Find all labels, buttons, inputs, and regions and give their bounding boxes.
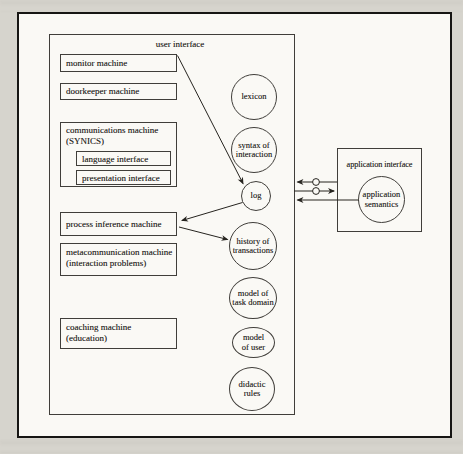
metacommunication-machine-sublabel: (interaction problems) <box>66 258 176 269</box>
metacommunication-machine-box: metacommunication machine (interaction p… <box>60 243 177 276</box>
lexicon-label: lexicon <box>241 92 266 102</box>
model-of-user-circle: model of user <box>232 327 275 358</box>
model-task-label-line2: task domain <box>232 298 273 308</box>
language-interface-label: language interface <box>82 154 148 164</box>
syntax-of-interaction-circle: syntax of interaction <box>231 127 277 173</box>
didactic-label-line2: rules <box>244 389 261 399</box>
monitor-machine-label: monitor machine <box>66 58 127 69</box>
model-user-label-line2: of user <box>242 343 265 353</box>
user-interface-label: user interface <box>140 39 220 49</box>
history-of-transactions-circle: history of transactions <box>229 222 277 270</box>
language-interface-box: language interface <box>76 151 171 166</box>
coaching-machine-label: coaching machine <box>66 322 176 333</box>
coaching-machine-box: coaching machine (education) <box>60 318 177 349</box>
coaching-machine-sublabel: (education) <box>66 333 176 344</box>
application-semantics-circle: application semantics <box>358 176 405 223</box>
doorkeeper-machine-label: doorkeeper machine <box>66 86 139 97</box>
metacommunication-machine-label: metacommunication machine <box>66 247 176 258</box>
bleed-through-artifact <box>0 0 463 12</box>
presentation-interface-label: presentation interface <box>82 173 160 183</box>
lexicon-circle: lexicon <box>231 74 277 120</box>
bleed-through-artifact <box>0 440 463 454</box>
scanned-page: user interface monitor machine doorkeepe… <box>0 0 463 454</box>
log-circle: log <box>241 181 271 211</box>
process-inference-machine-box: process inference machine <box>60 212 177 236</box>
doorkeeper-machine-box: doorkeeper machine <box>60 83 177 100</box>
log-label: log <box>251 191 262 201</box>
history-label-line2: transactions <box>233 246 274 256</box>
application-semantics-label-line2: semantics <box>365 200 399 210</box>
monitor-machine-box: monitor machine <box>60 54 177 72</box>
presentation-interface-box: presentation interface <box>76 170 171 185</box>
process-inference-machine-label: process inference machine <box>66 219 161 230</box>
didactic-rules-circle: didactic rules <box>229 367 275 411</box>
application-interface-label: application interface <box>338 160 421 169</box>
syntax-label-line2: interaction <box>236 150 272 160</box>
model-of-task-domain-circle: model of task domain <box>229 277 277 319</box>
communications-machine-sublabel: (SYNICS) <box>66 136 176 147</box>
communications-machine-label: communications machine <box>66 125 176 136</box>
